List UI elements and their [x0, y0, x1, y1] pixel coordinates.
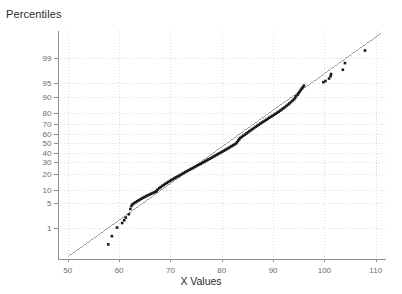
svg-text:110: 110 — [369, 266, 382, 275]
svg-text:50: 50 — [43, 139, 52, 148]
svg-text:99: 99 — [43, 54, 52, 63]
svg-text:100: 100 — [318, 266, 332, 275]
svg-text:20: 20 — [43, 170, 52, 179]
x-axis-title: X Values — [0, 275, 402, 287]
svg-text:1: 1 — [47, 224, 52, 233]
axis-ticks — [54, 59, 376, 262]
x-tick-labels: 5060708090100110 — [63, 266, 382, 275]
svg-text:90: 90 — [269, 266, 278, 275]
data-points — [107, 49, 366, 246]
plot-canvas: 151020304050607080909599 506070809010011… — [0, 0, 402, 294]
svg-text:90: 90 — [43, 93, 52, 102]
svg-text:40: 40 — [43, 149, 52, 158]
svg-text:5: 5 — [47, 199, 52, 208]
normal-probability-plot: Percentiles 151020304050607080909599 506… — [0, 0, 402, 294]
svg-text:95: 95 — [43, 79, 52, 88]
reference-line — [69, 33, 381, 256]
svg-text:10: 10 — [43, 186, 52, 195]
svg-text:80: 80 — [43, 109, 52, 118]
svg-text:30: 30 — [43, 158, 52, 167]
svg-text:80: 80 — [217, 266, 226, 275]
svg-text:60: 60 — [43, 130, 52, 139]
y-tick-labels: 151020304050607080909599 — [43, 54, 52, 233]
svg-text:50: 50 — [63, 266, 72, 275]
svg-text:60: 60 — [115, 266, 124, 275]
svg-text:70: 70 — [166, 266, 175, 275]
svg-text:70: 70 — [43, 120, 52, 129]
